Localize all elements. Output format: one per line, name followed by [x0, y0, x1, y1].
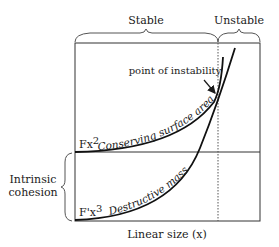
x-axis-label: Linear size (x) — [127, 228, 206, 241]
point-of-instability-label: point of instability — [129, 65, 222, 76]
stable-label: Stable — [128, 14, 164, 27]
instability-arrow — [204, 80, 215, 93]
quadratic-curve-label: Conserving surface area — [97, 93, 216, 153]
intrinsic-cohesion-line1: Intrinsic — [9, 173, 56, 186]
unstable-brace — [218, 29, 260, 42]
stable-brace — [75, 29, 218, 42]
quadratic-formula: Fx2 — [79, 135, 99, 151]
cubic-curve-label: Destructive mass — [106, 163, 190, 217]
intrinsic-cohesion-line2: cohesion — [8, 186, 57, 199]
cubic-formula: F'x3 — [79, 203, 102, 219]
cohesion-brace — [61, 153, 72, 221]
instability-diagram: Stable Unstable Conserving surface area … — [0, 0, 279, 247]
unstable-label: Unstable — [214, 14, 264, 27]
